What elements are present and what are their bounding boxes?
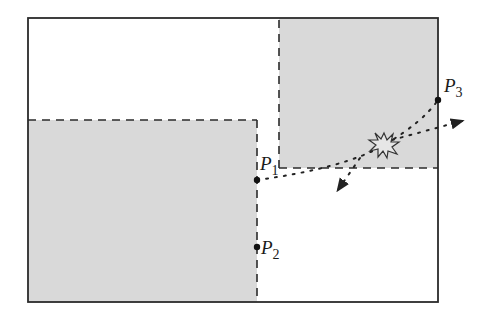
svg-text:P1: P1 [259,153,279,178]
point-p3-marker [435,97,441,103]
svg-text:P3: P3 [443,75,463,100]
point-p3-label: P [443,75,456,96]
point-p1-marker [254,177,260,183]
point-p2-marker [254,244,260,250]
point-p1-subscript: 1 [272,163,279,178]
point-p3: P3 [435,75,463,103]
lower-left-shaded-region [28,120,257,302]
svg-text:P2: P2 [260,237,280,262]
point-p2-subscript: 2 [273,247,280,262]
point-p2-label: P [260,237,273,258]
point-p3-subscript: 3 [456,85,463,100]
point-p2: P2 [254,237,280,262]
point-p1-label: P [259,153,272,174]
diagram-canvas: P1 P2 P3 [0,0,486,326]
upper-right-shaded-region [279,18,438,168]
